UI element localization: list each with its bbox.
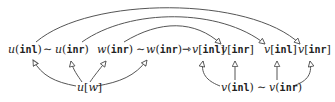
- svg-text:v[inl]: v[inl]: [192, 43, 225, 56]
- svg-text:v[inr]: v[inr]: [221, 43, 254, 56]
- node-v-inl-2: v[inl]: [264, 43, 297, 56]
- dependency-diagram: u(inl) ∼ u(inr) w(inr) ∼ w(inr) ⇾ v[inl]…: [0, 0, 335, 102]
- node-u-inl: u(inl): [8, 43, 42, 56]
- node-v-pair: v(inl)∼v(inr): [221, 81, 302, 94]
- arc-w-inr-to-v-inr-1: [124, 26, 221, 44]
- node-v-inl-1: v[inl]: [192, 43, 225, 56]
- edge-u-w-to-u-inl: [33, 60, 76, 86]
- svg-text:w(inr): w(inr): [97, 43, 133, 56]
- svg-text:u(inr): u(inr): [55, 43, 89, 56]
- node-v-inr-1: v[inr]: [221, 43, 254, 56]
- svg-text:w(inr): w(inr): [146, 43, 182, 56]
- svg-text:u(inl): u(inl): [8, 43, 42, 56]
- svg-text:v[inr]: v[inr]: [298, 43, 331, 56]
- node-u-inr: u(inr): [55, 43, 89, 56]
- maps-to-arrow: ⇾: [182, 43, 191, 56]
- edge-u-w-to-w-inr-2: [97, 60, 147, 86]
- edge-v-pair-to-v-inl-1: [202, 61, 220, 86]
- node-u-w: u[w]: [77, 81, 102, 94]
- node-w-inr-2: w(inr): [146, 43, 182, 56]
- edge-u-w-to-w-inr-1: [90, 61, 106, 82]
- svg-text:v[inl]: v[inl]: [264, 43, 297, 56]
- svg-text:v(inl)∼v(inr): v(inl)∼v(inr): [221, 81, 302, 94]
- edge-u-w-to-u-inr: [71, 61, 82, 82]
- sim-symbol: ∼: [43, 43, 52, 56]
- svg-text:u[w]: u[w]: [77, 81, 102, 94]
- node-v-inr-2: v[inr]: [298, 43, 331, 56]
- node-w-inr-1: w(inr): [97, 43, 133, 56]
- arc-u-inr-to-v-inl-2: [82, 17, 265, 44]
- sim-symbol: ∼: [136, 43, 145, 56]
